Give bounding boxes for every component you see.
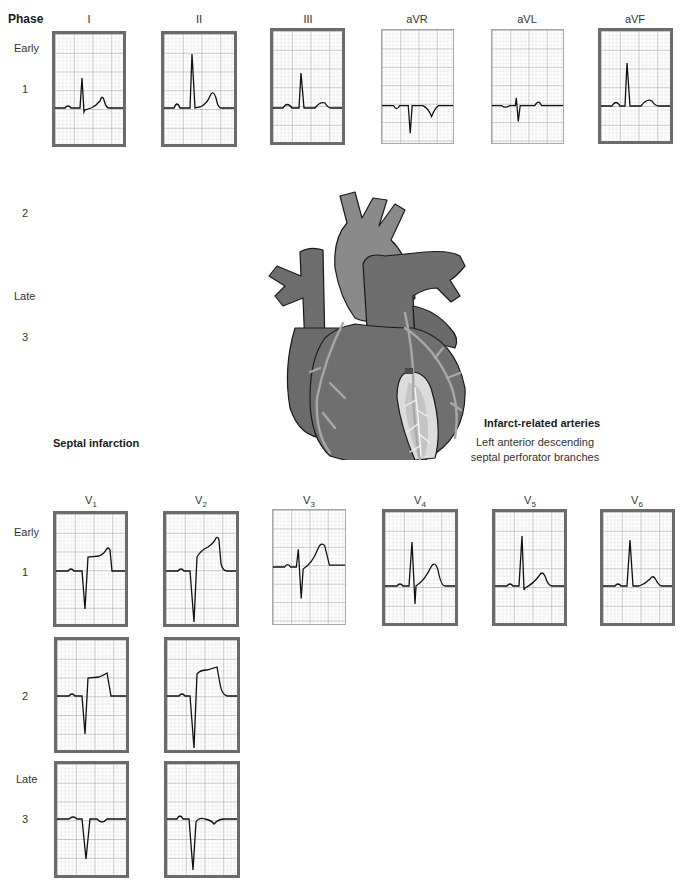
phase-label-late: Late <box>14 290 35 302</box>
lead-title-II: II <box>159 13 239 25</box>
precordial-phase-label-1: 1 <box>22 566 28 578</box>
lead-title-V3: V3 <box>269 494 349 509</box>
lead-title-aVF: aVF <box>595 13 675 25</box>
precordial-phase-label-2: 2 <box>22 690 28 702</box>
heart-illustration <box>255 188 475 460</box>
arteries-title: Infarct-related arteries <box>484 417 600 429</box>
ecg-panel-V4-phase1 <box>382 509 458 626</box>
precordial-phase-label-3: 3 <box>22 813 28 825</box>
lead-title-V6: V6 <box>597 494 677 509</box>
ecg-panel-V6-phase1 <box>600 509 675 626</box>
ecg-panel-V1-phase1 <box>53 511 128 627</box>
lead-title-I: I <box>49 13 129 25</box>
ecg-panel-II-phase1 <box>161 31 237 147</box>
ecg-panel-V1-phase3 <box>54 761 129 878</box>
ecg-panel-III-phase1 <box>270 28 345 145</box>
ecg-panel-aVF-phase1 <box>598 28 673 144</box>
ecg-panel-V2-phase2 <box>164 637 240 753</box>
phase-label-early: Early <box>14 42 39 54</box>
lead-title-III: III <box>268 13 348 25</box>
phase-header: Phase <box>8 12 43 26</box>
phase-label-1: 1 <box>22 83 28 95</box>
precordial-phase-label-late: Late <box>16 773 37 785</box>
arteries-line2: septal perforator branches <box>460 451 610 463</box>
lead-title-V4: V4 <box>380 494 460 509</box>
lead-title-V2: V2 <box>161 494 241 509</box>
ecg-panel-aVL-phase1 <box>491 29 564 144</box>
precordial-phase-label-early: Early <box>14 526 39 538</box>
lead-title-V1: V1 <box>51 494 131 509</box>
ecg-panel-V3-phase1 <box>272 509 346 625</box>
lead-title-aVL: aVL <box>487 13 567 25</box>
ecg-panel-V2-phase3 <box>164 761 240 878</box>
ecg-panel-V2-phase1 <box>163 511 239 627</box>
infarction-title: Septal infarction <box>53 437 139 449</box>
ecg-panel-V1-phase2 <box>54 637 129 753</box>
lead-title-aVR: aVR <box>377 13 457 25</box>
ecg-panel-V5-phase1 <box>492 509 567 626</box>
phase-label-2: 2 <box>22 207 28 219</box>
arteries-line1: Left anterior descending <box>460 436 610 448</box>
phase-label-3: 3 <box>22 331 28 343</box>
lead-title-V5: V5 <box>490 494 570 509</box>
ecg-panel-I-phase1 <box>52 31 126 147</box>
ecg-panel-aVR-phase1 <box>381 29 454 144</box>
